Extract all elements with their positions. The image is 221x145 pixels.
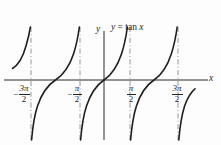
tick-minus-sign: − xyxy=(13,90,18,99)
tick-label-three-pi-over-two: 3π 2 xyxy=(171,84,183,104)
tick-label-neg-three-pi-over-two: − 3π 2 xyxy=(13,84,30,104)
x-axis-label: x xyxy=(209,74,213,84)
equation-tan: tan xyxy=(125,22,137,32)
fraction: 3π 2 xyxy=(172,84,183,104)
equation-equals: = xyxy=(115,22,125,32)
branch-partial-left xyxy=(13,27,31,69)
tangent-function-graph: y x y = tan x − 3π 2 − π 2 π 2 3π xyxy=(0,0,221,145)
tick-label-neg-pi-over-two: − π 2 xyxy=(67,84,82,104)
tick-minus-sign: − xyxy=(67,90,72,99)
fraction-denominator: 2 xyxy=(174,95,181,104)
fraction: π 2 xyxy=(73,84,82,104)
fraction-denominator: 2 xyxy=(21,95,28,104)
tick-label-pi-over-two: π 2 xyxy=(126,84,136,104)
equation-arg: x xyxy=(137,22,144,32)
y-axis-label: y xyxy=(96,25,100,35)
fraction-numerator: π xyxy=(128,84,135,93)
fraction: π 2 xyxy=(127,84,136,104)
fraction-numerator: π xyxy=(74,84,81,93)
fraction-numerator: 3π xyxy=(19,84,30,93)
fraction-denominator: 2 xyxy=(74,95,81,104)
fraction-numerator: 3π xyxy=(172,84,183,93)
function-equation-label: y = tan x xyxy=(111,23,144,33)
fraction: 3π 2 xyxy=(19,84,30,104)
fraction-denominator: 2 xyxy=(128,95,135,104)
